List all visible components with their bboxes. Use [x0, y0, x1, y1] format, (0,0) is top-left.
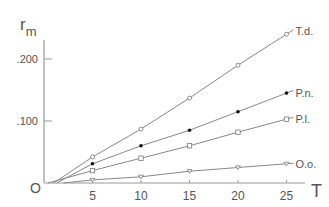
data-point [285, 91, 289, 95]
axes [44, 40, 305, 183]
data-point [139, 127, 143, 131]
data-point [236, 110, 240, 114]
data-point [91, 162, 95, 166]
data-point [188, 129, 192, 133]
data-point [236, 130, 240, 134]
y-tick-label: .200 [17, 53, 38, 65]
x-tick-label: 15 [183, 189, 197, 203]
data-point [139, 175, 144, 179]
y-axis-label: rm [20, 15, 37, 39]
origin-label: O [30, 180, 41, 196]
data-point [188, 96, 192, 100]
x-tick-label: 10 [134, 189, 148, 203]
y-tick-label: .100 [17, 115, 38, 127]
series-label: T.d. [296, 25, 314, 37]
data-point [187, 144, 191, 148]
series-line [54, 30, 294, 183]
x-tick-label: 5 [89, 189, 96, 203]
x-axis-label: T [311, 181, 322, 201]
data-point [90, 178, 95, 182]
series-label: P.l. [296, 113, 310, 125]
data-point [236, 166, 241, 170]
data-point [284, 117, 288, 121]
x-tick-label: 25 [280, 189, 294, 203]
series-group: T.d.P.n.P.l.O.o. [48, 25, 316, 183]
line-chart: 510152025.100.200 T.d.P.n.P.l.O.o. rm T … [0, 0, 329, 207]
series-td: T.d. [54, 25, 314, 183]
data-point [187, 170, 192, 174]
series-label: P.n. [296, 87, 314, 99]
series-oo: O.o. [63, 158, 316, 183]
data-point [91, 155, 95, 159]
data-point [90, 168, 94, 172]
series-label: O.o. [296, 158, 317, 170]
data-point [139, 144, 143, 148]
series-pn: P.n. [57, 87, 314, 183]
data-point [285, 32, 289, 36]
data-point [284, 162, 289, 166]
data-point [139, 156, 143, 160]
x-tick-label: 20 [231, 189, 245, 203]
series-line [63, 163, 293, 183]
data-point [236, 63, 240, 67]
